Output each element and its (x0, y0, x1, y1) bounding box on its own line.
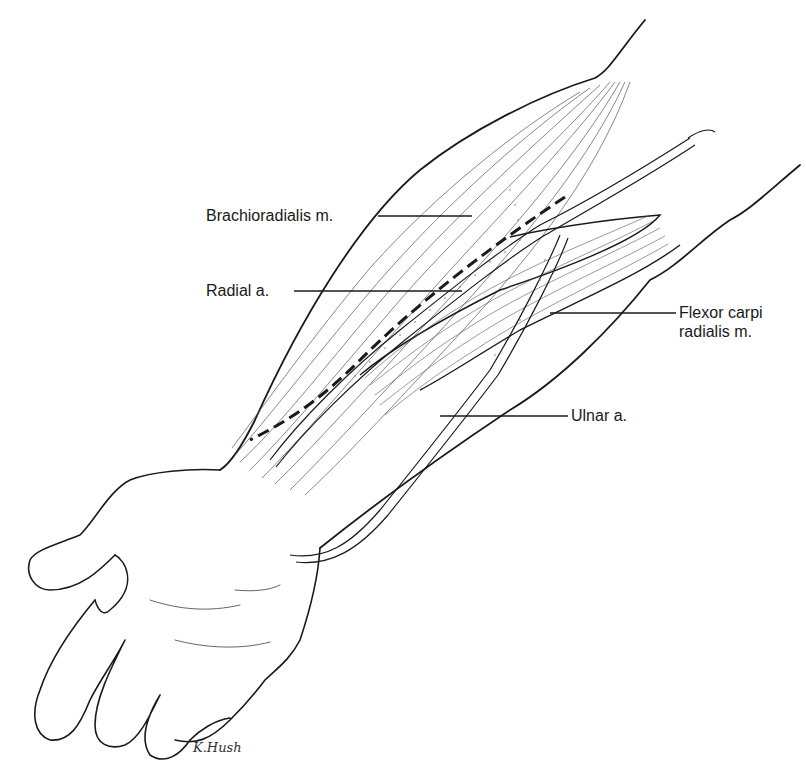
label-flexor-carpi-radialis-line2: radialis m. (679, 322, 752, 341)
artist-signature: K.Hush (193, 740, 242, 755)
label-brachioradialis: Brachioradialis m. (206, 206, 333, 225)
label-ulnar-artery: Ulnar a. (571, 406, 627, 425)
label-flexor-carpi-radialis-line1: Flexor carpi (679, 303, 763, 322)
fcr-outline-upper (360, 215, 660, 375)
label-radial-artery: Radial a. (206, 281, 269, 300)
anatomy-figure: Brachioradialis m. Radial a. Flexor carp… (0, 0, 806, 775)
forearm-outline-ulnar (320, 165, 800, 548)
fcr-outline-lower (420, 245, 680, 390)
radial-stipple (354, 189, 546, 377)
incision-line (250, 197, 565, 440)
brachial-artery (688, 130, 715, 138)
forearm-illustration (0, 0, 806, 775)
hand-outline (29, 469, 320, 759)
